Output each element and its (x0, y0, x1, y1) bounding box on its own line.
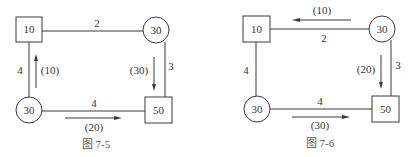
flow-arrow-down-icon (379, 55, 383, 89)
node-top-right-circle: 30 (143, 17, 169, 43)
node-value: 30 (252, 103, 264, 115)
edge-right-flow: (30) (130, 64, 149, 77)
figure-7-6: 10 30 30 50 2 4 3 4 (10) (20) (243, 4, 401, 149)
node-value: 30 (151, 24, 163, 36)
edge-right-cost: 3 (168, 60, 174, 72)
flow-arrow-up-icon (34, 54, 38, 88)
flow-arrow-down-icon (152, 57, 156, 91)
edge-top-cost: 2 (94, 17, 100, 29)
node-value: 10 (24, 23, 36, 35)
edge-left-cost: 4 (243, 64, 249, 76)
node-bottom-left-circle: 30 (16, 97, 42, 123)
flow-arrow-left-icon (292, 18, 351, 22)
edge-left-cost: 4 (17, 64, 23, 76)
node-value: 30 (24, 104, 36, 116)
node-top-left-square: 10 (243, 16, 270, 42)
node-bottom-right-square: 50 (372, 96, 399, 122)
edge-right-cost: 3 (395, 59, 401, 71)
edge-bottom-cost: 4 (91, 97, 97, 109)
edge-bottom-flow: (20) (85, 121, 104, 134)
figure-caption: 图 7-5 (82, 138, 111, 150)
node-value: 50 (153, 104, 165, 116)
edge-top-flow: (10) (313, 4, 332, 17)
figure-7-5: 10 30 30 50 2 4 3 4 (10) (30) (16, 17, 174, 150)
figure-caption: 图 7-6 (306, 137, 335, 149)
edge-right-flow: (20) (357, 63, 376, 76)
edge-bottom-cost: 4 (317, 95, 323, 107)
node-value: 10 (251, 23, 263, 35)
node-value: 50 (380, 103, 392, 115)
node-bottom-right-square: 50 (145, 97, 172, 123)
edge-top-cost: 2 (321, 32, 327, 44)
edge-left-flow: (10) (41, 64, 60, 77)
edge-bottom-flow: (30) (311, 119, 330, 132)
node-bottom-left-circle: 30 (244, 96, 270, 122)
node-top-right-circle: 30 (369, 16, 395, 42)
node-top-left-square: 10 (16, 17, 42, 42)
flow-arrow-right-icon (65, 116, 122, 120)
node-value: 30 (377, 23, 389, 35)
